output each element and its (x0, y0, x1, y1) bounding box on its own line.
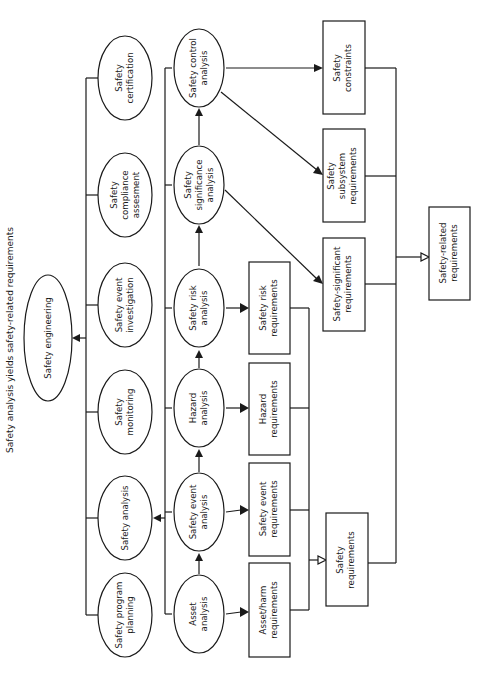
box-hazard-requirements: Hazard requirements (249, 363, 290, 455)
node-safety-monitoring: Safety monitoring (98, 370, 152, 454)
svg-text:Safety event: Safety event (114, 277, 124, 332)
svg-text:analysis: analysis (199, 390, 209, 425)
svg-text:planning: planning (125, 596, 135, 633)
svg-text:Safety: Safety (109, 181, 119, 209)
svg-text:Safety program: Safety program (114, 582, 124, 649)
svg-text:requirements: requirements (449, 224, 459, 282)
svg-text:assesment: assesment (131, 171, 141, 218)
safety-analysis-diagram: Safety analysis yields safety-related re… (0, 0, 488, 681)
node-asset-analysis: Asset analysis (174, 575, 224, 653)
node-safety-control-analysis: Safety control analysis (174, 29, 224, 107)
svg-text:monitoring: monitoring (125, 389, 135, 436)
svg-text:analysis: analysis (199, 50, 209, 85)
box-safety-related-requirements: Safety-related requirements (429, 207, 470, 300)
svg-text:certification: certification (125, 52, 135, 103)
node-safety-analysis: Safety analysis (98, 476, 152, 560)
box-safety-requirements: Safety requirements (326, 513, 368, 606)
box-safety-subsystem-requirements: Safety subsystem requirements (323, 129, 365, 222)
svg-text:subsystem: subsystem (337, 153, 347, 199)
svg-text:analysis: analysis (199, 596, 209, 631)
svg-text:Safety: Safety (114, 64, 124, 92)
svg-text:Asset: Asset (188, 602, 198, 626)
node-safety-certification: Safety certification (98, 36, 152, 120)
svg-text:constraints: constraints (343, 44, 353, 92)
node-safety-risk-analysis: Safety risk analysis (174, 269, 224, 347)
svg-text:Safety event: Safety event (258, 481, 268, 536)
svg-text:Hazard: Hazard (188, 393, 198, 423)
svg-text:Hazard: Hazard (258, 394, 268, 424)
svg-text:requirements: requirements (269, 279, 279, 337)
svg-text:Asset/harm: Asset/harm (258, 586, 268, 635)
svg-text:requirements: requirements (269, 480, 279, 538)
node-safety-event-analysis: Safety event analysis (174, 473, 224, 551)
svg-text:Safety: Safety (183, 171, 193, 199)
svg-text:Safety: Safety (335, 546, 345, 574)
svg-text:requirements: requirements (269, 581, 279, 639)
svg-text:analysis: analysis (199, 494, 209, 529)
svg-text:requirements: requirements (343, 255, 353, 313)
svg-text:Safety-significant: Safety-significant (332, 246, 342, 321)
box-safety-risk-requirements: Safety risk requirements (249, 262, 290, 354)
svg-text:analysis: analysis (205, 167, 215, 202)
svg-text:Safety-related: Safety-related (438, 223, 448, 284)
node-safety-program-planning: Safety program planning (98, 573, 152, 657)
svg-text:Safety risk: Safety risk (188, 285, 198, 331)
node-safety-compliance-assessment: Safety compliance assesment (98, 153, 152, 237)
svg-text:Safety analysis: Safety analysis (120, 485, 130, 551)
svg-text:analysis: analysis (199, 290, 209, 325)
box-asset-harm-requirements: Asset/harm requirements (249, 563, 290, 657)
diagram-title: Safety analysis yields safety-related re… (5, 227, 15, 453)
svg-text:Safety: Safety (332, 54, 342, 82)
svg-text:Safety risk: Safety risk (258, 285, 268, 331)
svg-text:Safety event: Safety event (188, 484, 198, 539)
svg-text:significance: significance (194, 159, 204, 210)
svg-text:requirements: requirements (346, 531, 356, 589)
svg-text:Safety control: Safety control (188, 38, 198, 98)
svg-text:Safety: Safety (114, 398, 124, 426)
box-safety-significant-requirements: Safety-significant requirements (323, 238, 365, 331)
node-safety-event-investigation: Safety event investigation (98, 263, 152, 347)
svg-text:requirements: requirements (348, 147, 358, 205)
node-safety-engineering: Safety engineering (24, 275, 72, 401)
svg-text:requirements: requirements (269, 380, 279, 438)
box-safety-constraints: Safety constraints (323, 21, 365, 114)
svg-text:investigation: investigation (125, 277, 135, 333)
box-safety-event-requirements: Safety event requirements (249, 463, 290, 556)
node-safety-significance-analysis: Safety significance analysis (174, 146, 224, 224)
svg-text:Safety engineering: Safety engineering (43, 297, 53, 379)
svg-text:Safety: Safety (326, 162, 336, 190)
svg-text:compliance: compliance (120, 170, 130, 219)
node-hazard-analysis: Hazard analysis (174, 369, 224, 447)
